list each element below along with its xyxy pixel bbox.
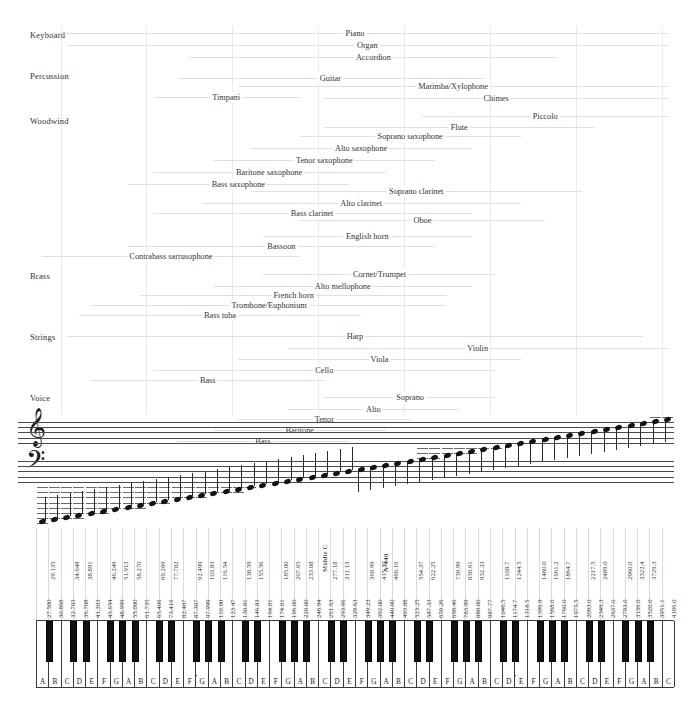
black-key[interactable] <box>291 621 298 662</box>
black-key[interactable] <box>622 621 629 662</box>
note-head <box>283 478 291 485</box>
black-key[interactable] <box>598 621 605 662</box>
white-key-frequency: 698.46 <box>450 599 457 618</box>
key-letter-label: F <box>98 678 109 686</box>
white-key-frequency: 1568.0 <box>548 599 555 618</box>
white-key-frequency: 392.00 <box>376 599 383 618</box>
white-key-frequency: 2793.0 <box>621 599 628 618</box>
key-letter-label: E <box>430 678 441 686</box>
instrument-label: Bass <box>198 375 218 386</box>
key-letter-label: G <box>626 678 637 686</box>
middle-c-marker: Middle C <box>321 545 328 572</box>
note-stem <box>106 487 107 510</box>
black-key[interactable] <box>475 621 482 662</box>
white-key-frequency: 2349.3 <box>597 599 604 618</box>
black-key[interactable] <box>414 621 421 662</box>
black-key[interactable] <box>303 621 310 662</box>
black-key[interactable] <box>500 621 507 662</box>
key-letter-label: D <box>417 678 428 686</box>
staff-line <box>18 432 674 433</box>
black-key[interactable] <box>365 621 372 662</box>
note-stem <box>143 481 144 504</box>
black-key[interactable] <box>561 621 568 662</box>
instrument-range-row: Alto saxophone <box>251 143 472 154</box>
instrument-label: Alto saxophone <box>333 143 389 154</box>
instrument-range-row: Oboe <box>300 215 545 226</box>
black-key[interactable] <box>512 621 519 662</box>
black-key-frequency: 34.648 <box>73 561 80 580</box>
black-key[interactable] <box>156 621 163 662</box>
instrument-label: Organ <box>355 40 380 51</box>
black-key[interactable] <box>83 621 90 662</box>
white-key-frequency: 2637.0 <box>609 599 616 618</box>
black-key[interactable] <box>463 621 470 662</box>
instrument-label: Tenor saxophone <box>294 155 355 166</box>
black-key[interactable] <box>549 621 556 662</box>
black-key[interactable] <box>328 621 335 662</box>
white-key-frequency: 3136.0 <box>634 599 641 618</box>
note-stem <box>82 491 83 514</box>
black-key-frequency: 207.65 <box>294 561 301 580</box>
black-key[interactable] <box>279 621 286 662</box>
instrument-range-row: Contrabass sarrusophone <box>42 251 300 262</box>
black-key[interactable] <box>107 621 114 662</box>
black-key[interactable] <box>635 621 642 662</box>
instrument-range-row: Cornet/Trumpet <box>263 269 496 280</box>
white-key-frequency: 82.407 <box>180 599 187 618</box>
black-key[interactable] <box>340 621 347 662</box>
key-letter-label: A <box>123 678 134 686</box>
white-key-frequency: 440.00 <box>388 599 395 618</box>
white-key-frequency: 3951.1 <box>658 599 665 618</box>
note-stem <box>205 471 206 494</box>
key-letter-label: C <box>405 678 416 686</box>
ledger-line <box>49 487 60 488</box>
note-stem <box>192 473 193 496</box>
instrument-range-row: Soprano clarinet <box>251 186 582 197</box>
black-key[interactable] <box>426 621 433 662</box>
black-key[interactable] <box>205 621 212 662</box>
note-head <box>529 438 537 445</box>
black-key[interactable] <box>132 621 139 662</box>
black-key[interactable] <box>451 621 458 662</box>
instrument-label: Timpani <box>210 92 242 103</box>
piano-keyboard[interactable]: ABCDEFGABCDEFGABCDEFGABCDEFGABCDEFGABCDE… <box>36 620 674 688</box>
white-key-frequency: 110.00 <box>217 600 224 619</box>
black-key[interactable] <box>647 621 654 662</box>
note-stem <box>542 439 543 462</box>
category-label-voice: Voice <box>30 393 50 403</box>
white-key-frequency: 123.47 <box>229 599 236 618</box>
white-key-frequency: 659.26 <box>437 599 444 618</box>
note-head <box>222 488 230 495</box>
black-key[interactable] <box>242 621 249 662</box>
note-stem <box>493 447 494 470</box>
black-key[interactable] <box>168 621 175 662</box>
black-key[interactable] <box>389 621 396 662</box>
instrument-label: Contrabass sarrusophone <box>127 251 214 262</box>
white-key-frequency: 3520.0 <box>646 599 653 618</box>
instrument-range-row: Bass tuba <box>79 310 361 321</box>
black-key[interactable] <box>46 621 53 662</box>
black-key[interactable] <box>218 621 225 662</box>
staff-line <box>18 466 674 467</box>
black-key-frequency: 77.782 <box>172 561 179 580</box>
key-letter-label: F <box>184 678 195 686</box>
black-key-frequency: 29.135 <box>49 561 56 580</box>
black-key[interactable] <box>537 621 544 662</box>
black-key-frequency: 277.18 <box>331 561 338 580</box>
instrument-range-row: Tenor saxophone <box>214 155 435 166</box>
bass-clef-icon: 𝄢 <box>26 448 45 478</box>
black-key-frequency: 116.54 <box>221 562 228 581</box>
black-key[interactable] <box>193 621 200 662</box>
black-key[interactable] <box>119 621 126 662</box>
key-letter-label: D <box>331 678 342 686</box>
black-key[interactable] <box>70 621 77 662</box>
note-stem <box>180 475 181 498</box>
white-key[interactable]: C <box>663 621 675 687</box>
key-letter-label: E <box>86 678 97 686</box>
black-key[interactable] <box>377 621 384 662</box>
key-letter-label: C <box>663 678 674 686</box>
black-key[interactable] <box>254 621 261 662</box>
black-key[interactable] <box>586 621 593 662</box>
key-letter-label: A <box>37 678 48 686</box>
note-head <box>369 464 377 471</box>
